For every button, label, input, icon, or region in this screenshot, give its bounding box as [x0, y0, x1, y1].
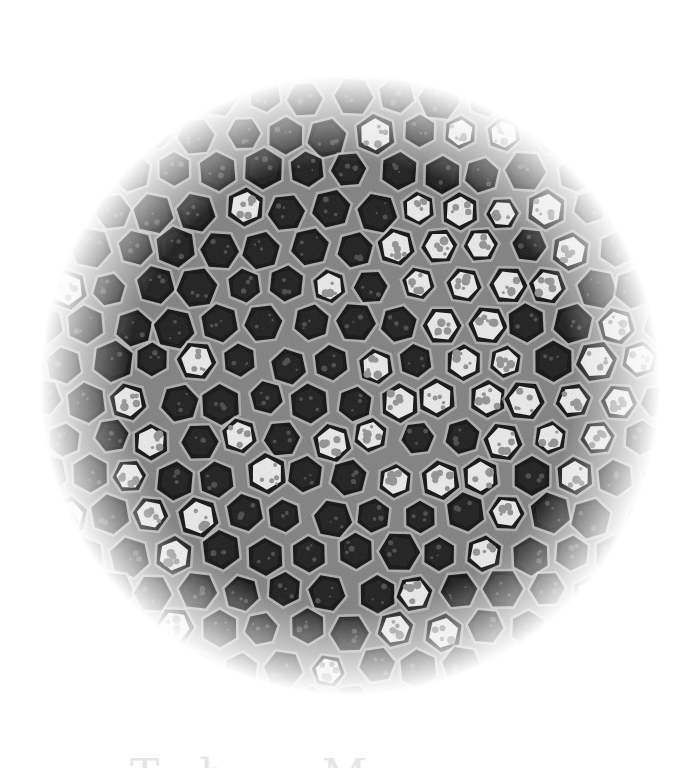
- figure-card: [47, 30, 658, 768]
- page: Th M: [0, 0, 695, 768]
- figure-caption: Th M: [130, 754, 590, 768]
